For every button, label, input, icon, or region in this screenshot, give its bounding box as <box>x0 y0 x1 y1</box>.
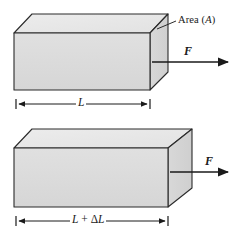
area-label-prefix: Area ( <box>178 14 205 25</box>
block-front-face <box>14 148 168 207</box>
force-label-top: F <box>184 45 192 57</box>
force-label-bottom: F <box>205 155 213 167</box>
area-label: Area (A) <box>178 15 215 26</box>
undeformed-block <box>14 14 168 90</box>
delta-symbol: Δ <box>91 213 98 225</box>
figure-canvas <box>0 0 238 236</box>
block-top-face <box>14 129 192 148</box>
area-label-suffix: ) <box>212 14 216 25</box>
dimension-label-bottom: L + ΔL <box>70 214 106 226</box>
dimension-label-bottom-operator: + <box>78 213 90 225</box>
dimension-label-bottom-suffix: L <box>98 213 104 225</box>
physics-figure: Area (A) F F L L + ΔL <box>0 0 238 236</box>
stretched-block <box>14 129 192 207</box>
block-front-face <box>14 33 150 90</box>
dimension-label-top: L <box>76 97 86 109</box>
block-top-face <box>14 14 168 33</box>
